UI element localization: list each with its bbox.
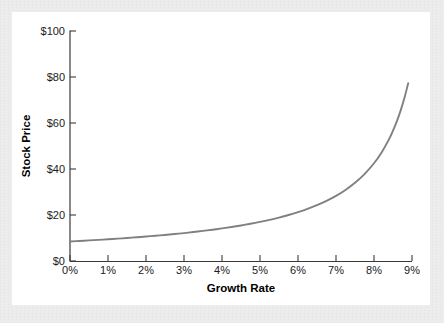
figure-card xyxy=(12,12,430,305)
screenshot-root: $100 $80 $60 $40 $20 $0 0% 1% 2% 3% 4% xyxy=(0,0,444,323)
